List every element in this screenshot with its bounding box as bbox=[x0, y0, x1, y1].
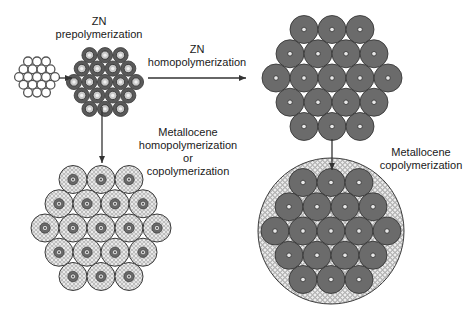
particle bbox=[360, 40, 388, 68]
particle bbox=[74, 88, 89, 103]
particle bbox=[290, 112, 318, 140]
catalyst-cluster bbox=[15, 57, 60, 97]
particle bbox=[275, 193, 303, 221]
particle bbox=[318, 112, 346, 140]
particle bbox=[317, 169, 345, 197]
particle bbox=[346, 16, 374, 44]
homopolymer-cluster bbox=[262, 16, 402, 141]
particle bbox=[121, 61, 136, 76]
particle bbox=[87, 262, 115, 290]
particle bbox=[45, 190, 73, 218]
particle bbox=[373, 217, 401, 245]
particle bbox=[128, 74, 143, 89]
particle bbox=[317, 217, 345, 245]
particle bbox=[113, 48, 128, 63]
particle bbox=[289, 265, 317, 293]
label-line: prepolymerization bbox=[56, 28, 143, 41]
zn-homopolymerization-label: ZN homopolymerization bbox=[148, 43, 246, 69]
particle bbox=[262, 64, 290, 92]
particle bbox=[90, 61, 105, 76]
particle bbox=[345, 169, 373, 197]
particle bbox=[360, 88, 388, 116]
zn-prepolymerization-label: ZN prepolymerization bbox=[56, 15, 143, 41]
particle bbox=[105, 61, 120, 76]
particle bbox=[42, 88, 51, 97]
particle bbox=[303, 241, 331, 269]
metallocene-copolymerization-label: Metallocene copolymerization bbox=[380, 146, 463, 172]
particle bbox=[290, 16, 318, 44]
particle bbox=[303, 193, 331, 221]
particle bbox=[90, 88, 105, 103]
particle bbox=[59, 166, 87, 194]
particle bbox=[143, 214, 171, 242]
label-line: copolymerization bbox=[139, 165, 237, 178]
particle bbox=[115, 214, 143, 242]
particle bbox=[289, 217, 317, 245]
label-line: or bbox=[139, 152, 237, 165]
particle bbox=[374, 64, 402, 92]
label-line: Metallocene bbox=[380, 146, 463, 159]
particle bbox=[24, 88, 33, 97]
particle bbox=[332, 88, 360, 116]
particle bbox=[87, 214, 115, 242]
particle bbox=[331, 241, 359, 269]
particle bbox=[317, 265, 345, 293]
particle bbox=[113, 74, 128, 89]
particle bbox=[82, 48, 97, 63]
particle bbox=[331, 193, 359, 221]
label-line: Metallocene bbox=[139, 126, 237, 139]
particle bbox=[73, 190, 101, 218]
particle bbox=[66, 74, 81, 89]
particle bbox=[359, 193, 387, 221]
particle bbox=[276, 40, 304, 68]
particle bbox=[82, 74, 97, 89]
particle bbox=[276, 88, 304, 116]
particle bbox=[346, 64, 374, 92]
particle bbox=[115, 262, 143, 290]
particle bbox=[129, 238, 157, 266]
particle bbox=[304, 40, 332, 68]
particle bbox=[275, 241, 303, 269]
metallocene-homopolymerization-label: Metallocene homopolymerization or copoly… bbox=[139, 126, 237, 178]
metallocene_hom-cluster bbox=[31, 166, 171, 291]
prepolymer-cluster bbox=[66, 48, 143, 117]
particle bbox=[73, 238, 101, 266]
particle bbox=[59, 262, 87, 290]
particle bbox=[74, 61, 89, 76]
particle bbox=[129, 190, 157, 218]
particle bbox=[345, 265, 373, 293]
label-line: copolymerization bbox=[380, 159, 463, 172]
particle bbox=[332, 40, 360, 68]
particle bbox=[113, 101, 128, 116]
particle bbox=[101, 190, 129, 218]
particle bbox=[105, 88, 120, 103]
particle bbox=[121, 88, 136, 103]
label-line: ZN bbox=[56, 15, 143, 28]
particle bbox=[359, 241, 387, 269]
label-line: homopolymerization bbox=[148, 56, 246, 69]
label-line: homopolymerization bbox=[139, 139, 237, 152]
particle bbox=[318, 64, 346, 92]
particle bbox=[346, 112, 374, 140]
particle bbox=[101, 238, 129, 266]
particle bbox=[97, 48, 112, 63]
particle bbox=[97, 74, 112, 89]
particle bbox=[31, 214, 59, 242]
particle bbox=[33, 88, 42, 97]
particle bbox=[345, 217, 373, 245]
particle bbox=[82, 101, 97, 116]
particle bbox=[45, 238, 73, 266]
particle bbox=[304, 88, 332, 116]
particle bbox=[289, 169, 317, 197]
particle bbox=[261, 217, 289, 245]
particle bbox=[318, 16, 346, 44]
particle bbox=[59, 214, 87, 242]
particle bbox=[97, 101, 112, 116]
label-line: ZN bbox=[148, 43, 246, 56]
particle bbox=[290, 64, 318, 92]
particle bbox=[87, 166, 115, 194]
